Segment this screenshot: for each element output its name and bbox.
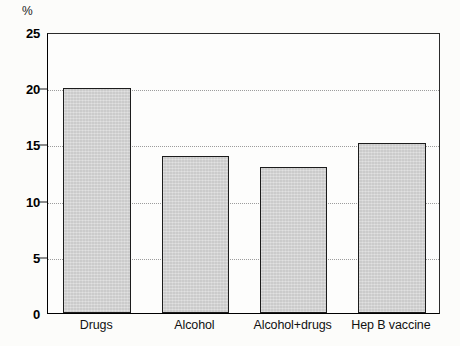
y-tick-mark-15	[39, 145, 47, 146]
bar-chart: % 0510152025 DrugsAlcoholAlcohol+drugsHe…	[0, 0, 460, 346]
bar	[260, 167, 327, 313]
x-axis-category-labels: DrugsAlcoholAlcohol+drugsHep B vaccine	[47, 318, 440, 340]
y-tick-label-20: 20	[26, 82, 40, 97]
bar	[358, 143, 425, 313]
y-tick-mark-20	[39, 89, 47, 90]
bar	[162, 156, 229, 313]
y-tick-mark-10	[39, 201, 47, 202]
y-axis-tick-marks	[39, 33, 47, 314]
y-axis-tick-labels: 0510152025	[0, 33, 40, 314]
y-tick-label-25: 25	[26, 26, 40, 41]
bar	[63, 88, 130, 313]
x-label: Alcohol+drugs	[253, 318, 331, 332]
y-tick-label-15: 15	[26, 138, 40, 153]
y-tick-mark-5	[39, 257, 47, 258]
x-label: Alcohol	[174, 318, 214, 332]
y-axis-unit-label: %	[22, 4, 33, 18]
x-label: Hep B vaccine	[351, 318, 430, 332]
plot-area	[47, 33, 440, 314]
y-tick-label-10: 10	[26, 194, 40, 209]
x-label: Drugs	[80, 318, 113, 332]
